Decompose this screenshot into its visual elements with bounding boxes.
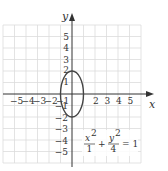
- y-tick: 4: [63, 43, 69, 53]
- equation: x 2 1 + y 2 4 = 1: [82, 128, 138, 156]
- x-tick: 2: [93, 96, 99, 106]
- eq-plus: +: [98, 139, 106, 149]
- y-tick: 3: [63, 55, 69, 65]
- ellipse-graph: x y −5 −4 −3 −2 −1 2 3 4 5 5 4 3 2 1 −1 …: [0, 0, 168, 171]
- x-tick: 3: [105, 96, 111, 106]
- y-tick: −5: [55, 147, 69, 157]
- eq-y-denominator: 4: [111, 144, 117, 154]
- y-tick: 5: [63, 32, 69, 42]
- eq-x-numerator: x: [85, 133, 90, 143]
- eq-x-exponent: 2: [91, 128, 97, 138]
- x-tick: 5: [128, 96, 134, 106]
- x-tick: 4: [116, 96, 122, 106]
- x-axis-label: x: [149, 98, 156, 111]
- eq-equals: = 1: [122, 139, 138, 149]
- eq-x-denominator: 1: [87, 144, 93, 154]
- y-tick: −4: [55, 136, 69, 146]
- eq-y-numerator: y: [108, 133, 115, 143]
- eq-y-exponent: 2: [115, 128, 121, 138]
- y-tick: −3: [55, 124, 69, 134]
- y-axis-label: y: [61, 10, 69, 23]
